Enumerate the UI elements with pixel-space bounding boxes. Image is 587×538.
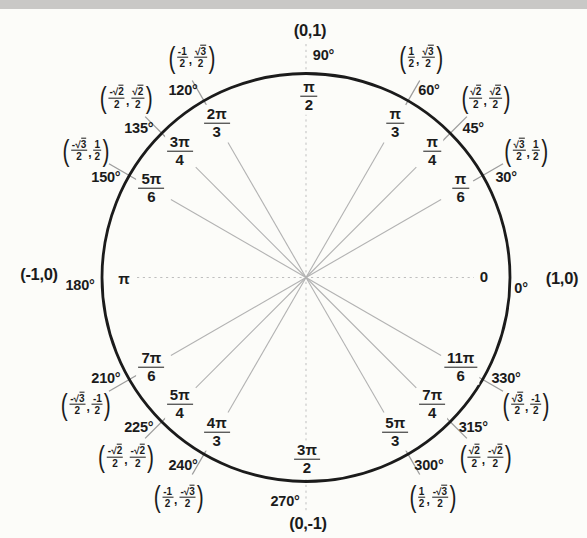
coordinate-label-240-y-denominator: 2 — [179, 498, 195, 510]
coordinate-label-210-x-denominator: 2 — [69, 405, 85, 417]
coordinate-label-120-y-fraction: √32 — [194, 46, 207, 70]
coordinate-label-150: (-√32,12) — [61, 138, 111, 163]
coordinate-label-30-y-numerator: 1 — [532, 138, 540, 151]
ray-line-300 — [306, 278, 384, 413]
radian-label-210: 7π6 — [136, 348, 166, 385]
axis-coordinate-label-90: (0,1) — [294, 21, 326, 40]
coordinate-label-135-y-fraction: √22 — [131, 86, 144, 110]
radian-label-270-numerator: 3π — [294, 442, 320, 460]
coordinate-label-45-y-fraction: √22 — [489, 86, 502, 110]
coordinate-label-240-x-denominator: 2 — [162, 498, 173, 510]
coordinate-label-45-x-numerator: √2 — [469, 86, 482, 99]
radian-label-90: π2 — [298, 78, 319, 115]
coordinate-label-135-comma: , — [126, 93, 129, 107]
ray-line-225 — [196, 278, 306, 388]
coordinate-label-315-comma: , — [482, 452, 485, 466]
coordinate-label-120-comma: , — [189, 53, 192, 67]
coordinate-label-60-x-denominator: 2 — [408, 58, 416, 70]
coordinate-label-135-open-paren: ( — [100, 86, 107, 111]
coordinate-label-150-x-denominator: 2 — [71, 151, 87, 163]
coordinate-label-45-x-denominator: 2 — [469, 98, 482, 110]
radian-label-45-numerator: π — [423, 134, 440, 152]
coordinate-label-60-comma: , — [416, 53, 419, 67]
coordinate-label-210-y-fraction: -12 — [92, 392, 103, 416]
radian-label-90-numerator: π — [300, 79, 317, 97]
coordinate-label-210-y-denominator: 2 — [92, 405, 103, 417]
coordinate-label-30-y-denominator: 2 — [532, 151, 540, 163]
coordinate-label-45-y-denominator: 2 — [489, 98, 502, 110]
coordinate-label-315-x-denominator: 2 — [468, 458, 481, 470]
coordinate-label-30-open-paren: ( — [504, 138, 511, 163]
scanned-textbook-page: π630°(√32,12)π445°(√22,√22)π360°(12,√32)… — [0, 0, 587, 538]
coordinate-label-240-open-paren: ( — [154, 485, 161, 510]
coordinate-label-120-close-paren: ) — [209, 45, 216, 70]
coordinate-label-315-y-fraction: -√22 — [487, 445, 503, 469]
degree-label-180: 180° — [65, 277, 94, 293]
coordinate-label-240-y-numerator: -√3 — [179, 485, 195, 498]
radian-label-315: 7π4 — [417, 385, 447, 422]
ray-line-45 — [306, 167, 416, 277]
radian-label-150-denominator: 6 — [138, 189, 164, 206]
coordinate-label-225-x-numerator: -√2 — [107, 445, 123, 458]
coordinate-label-60-x-fraction: 12 — [408, 46, 416, 70]
coordinate-label-240-x-fraction: -12 — [162, 485, 173, 509]
degree-label-0: 0° — [514, 280, 527, 296]
ray-line-330 — [306, 278, 441, 356]
radian-label-240: 4π3 — [202, 414, 232, 451]
coordinate-label-30-close-paren: ) — [541, 138, 548, 163]
coordinate-label-135-close-paren: ) — [146, 86, 153, 111]
degree-label-210: 210° — [91, 370, 120, 386]
coordinate-label-210: (-√32,-12) — [60, 392, 113, 417]
radian-label-315-denominator: 4 — [419, 404, 445, 421]
coordinate-label-30-x-denominator: 2 — [512, 151, 525, 163]
radian-label-225: 5π4 — [165, 385, 195, 422]
coordinate-label-150-y-fraction: 12 — [94, 138, 102, 162]
coordinate-label-120-y-numerator: √3 — [194, 46, 207, 59]
radian-label-330-denominator: 6 — [444, 367, 477, 384]
radian-label-30: π6 — [450, 170, 471, 207]
coordinate-label-330-y-numerator: -1 — [530, 392, 541, 405]
coordinate-label-300-close-paren: ) — [450, 485, 457, 510]
coordinate-label-135-x-fraction: -√22 — [108, 86, 124, 110]
radian-label-120: 2π3 — [202, 105, 232, 142]
degree-label-270: 270° — [270, 493, 299, 509]
coordinate-label-135: (-√22,√22) — [99, 86, 154, 111]
coordinate-label-210-comma: , — [87, 400, 90, 414]
coordinate-label-300-comma: , — [426, 493, 429, 507]
radian-label-120-denominator: 3 — [204, 123, 230, 140]
radian-label-240-numerator: 4π — [204, 415, 230, 433]
coordinate-label-120-y-denominator: 2 — [194, 58, 207, 70]
ray-line-135 — [196, 167, 306, 277]
coordinate-label-120-x-denominator: 2 — [177, 58, 188, 70]
coordinate-label-30-y-fraction: 12 — [532, 138, 540, 162]
radian-label-240-denominator: 3 — [204, 433, 230, 450]
radian-label-315-numerator: 7π — [419, 386, 445, 404]
radian-label-0: 0 — [477, 267, 491, 284]
ray-line-315 — [306, 278, 416, 388]
degree-label-150: 150° — [91, 169, 120, 185]
coordinate-label-225-close-paren: ) — [147, 445, 154, 470]
coordinate-label-60-y-fraction: √32 — [421, 46, 434, 70]
coordinate-label-240-x-numerator: -1 — [162, 485, 173, 498]
degree-label-225: 225° — [124, 419, 153, 435]
coordinate-label-135-y-denominator: 2 — [131, 98, 144, 110]
coordinate-label-300-x-fraction: 12 — [418, 485, 426, 509]
radian-label-330: 11π6 — [442, 348, 479, 385]
degree-label-45: 45° — [463, 120, 484, 136]
coordinate-label-330-x-denominator: 2 — [511, 405, 524, 417]
coordinate-label-300-x-denominator: 2 — [418, 498, 426, 510]
coordinate-label-300-y-fraction: -√32 — [432, 485, 448, 509]
degree-label-30: 30° — [495, 169, 516, 185]
radian-label-300: 5π3 — [380, 414, 410, 451]
radian-label-270: 3π2 — [292, 441, 322, 478]
unit-circle-figure: π630°(√32,12)π445°(√22,√22)π360°(12,√32)… — [0, 0, 587, 538]
coordinate-label-330-y-denominator: 2 — [530, 405, 541, 417]
coordinate-label-210-x-numerator: -√3 — [69, 392, 85, 405]
coordinate-label-315-y-numerator: -√2 — [487, 445, 503, 458]
coordinate-label-60: (12,√32) — [398, 45, 444, 70]
ray-line-120 — [228, 142, 306, 277]
coordinate-label-330-y-fraction: -12 — [530, 392, 541, 416]
coordinate-label-240: (-12,-√32) — [153, 485, 206, 510]
coordinate-label-300-y-denominator: 2 — [432, 498, 448, 510]
coordinate-label-225: (-√22,-√22) — [97, 445, 155, 470]
